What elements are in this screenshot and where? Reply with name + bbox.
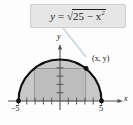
equation-y-symbol: y xyxy=(50,10,55,22)
equation-callout-box: y = √25 − x2 xyxy=(30,4,126,28)
equation-radicand-text: 25 − x xyxy=(73,10,101,22)
equation-text: y = √25 − x2 xyxy=(50,9,105,22)
figure-container: y = √25 − x2 y x −5 5 (x, y) xyxy=(0,0,133,125)
x-axis-label: x xyxy=(124,94,128,103)
x-tick-label-five: 5 xyxy=(99,104,103,113)
y-axis-arrowhead xyxy=(58,44,62,50)
x-tick-label-minus-five: −5 xyxy=(11,104,20,113)
endpoint-marker-left xyxy=(16,99,21,104)
equation-exponent: 2 xyxy=(101,9,105,17)
endpoint-marker-right xyxy=(99,99,104,104)
callout-leader-line xyxy=(63,28,86,57)
equation-radicand: 25 − x2 xyxy=(72,9,106,22)
point-label-xy: (x, y) xyxy=(92,54,109,63)
y-axis-label: y xyxy=(57,32,61,41)
equation-equals-sign: = xyxy=(58,10,64,22)
x-axis-arrowhead xyxy=(118,99,124,103)
point-marker-xy xyxy=(84,66,89,71)
